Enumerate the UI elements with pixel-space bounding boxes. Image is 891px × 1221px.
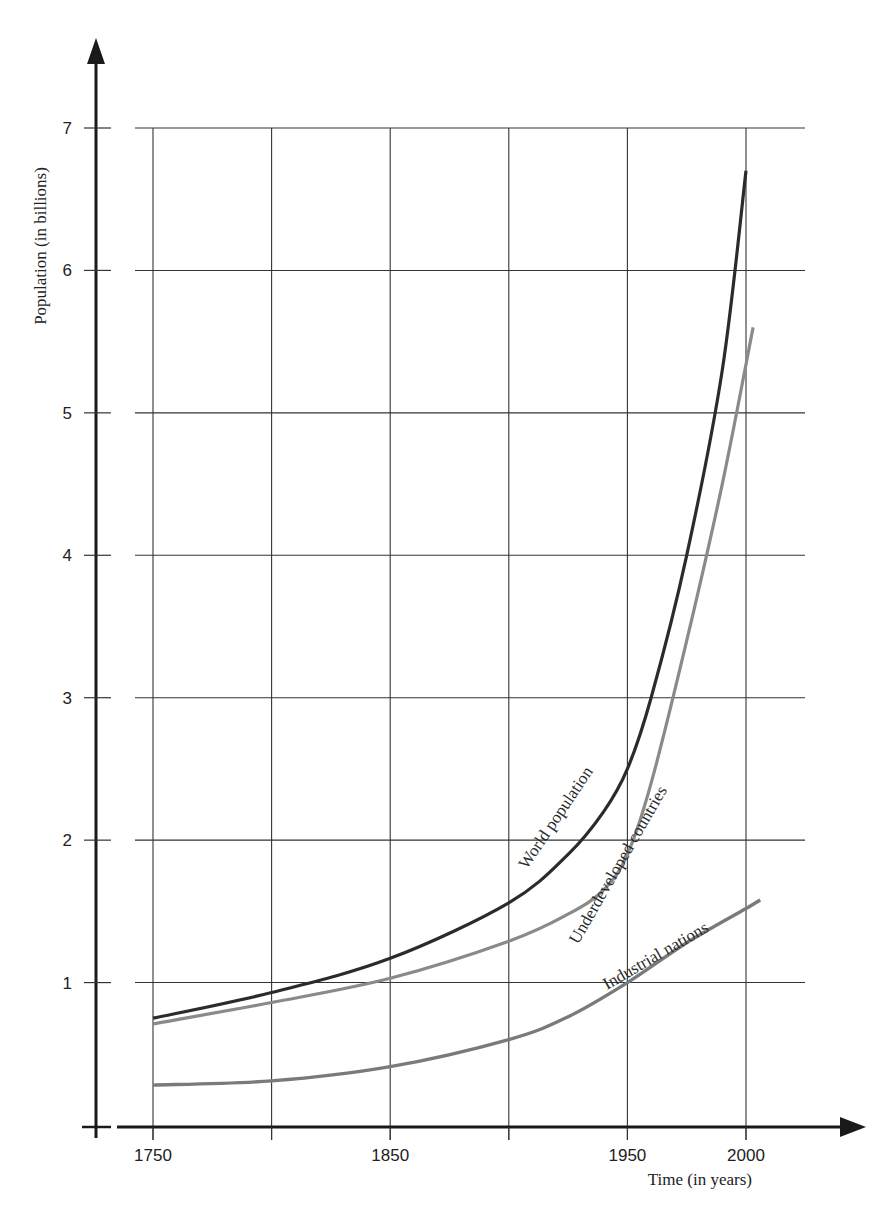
x-tick-label: 1850 [371, 1146, 409, 1165]
y-tick-label: 4 [63, 546, 72, 565]
curve-label-underdeveloped-countries: Underdeveloped countries [565, 783, 671, 947]
horizontal-gridlines [135, 128, 805, 983]
curve-label-world-population: World population [515, 763, 598, 873]
population-chart: World populationUnderdeveloped countries… [0, 0, 891, 1221]
y-tick-label: 7 [63, 119, 72, 138]
y-axis-title: Population (in billions) [31, 167, 50, 325]
vertical-gridlines [153, 128, 746, 1140]
x-axis-ticks: 1750185019502000 [134, 1127, 765, 1165]
y-tick-label: 5 [63, 404, 72, 423]
x-tick-label: 1950 [608, 1146, 646, 1165]
x-axis-arrow-icon [840, 1117, 866, 1137]
y-tick-label: 6 [63, 261, 72, 280]
y-tick-label: 3 [63, 689, 72, 708]
y-axis-ticks: 1234567 [63, 119, 111, 993]
x-axis-title: Time (in years) [648, 1170, 752, 1189]
x-tick-label: 1750 [134, 1146, 172, 1165]
curve-underdeveloped-countries [153, 327, 753, 1023]
curve-world-population [153, 171, 746, 1018]
y-tick-label: 1 [63, 974, 72, 993]
curve-industrial-nations [153, 900, 760, 1085]
y-axis-arrow-icon [87, 38, 105, 64]
x-tick-label: 2000 [727, 1146, 765, 1165]
y-tick-label: 2 [63, 831, 72, 850]
